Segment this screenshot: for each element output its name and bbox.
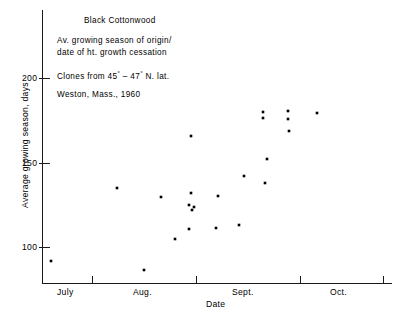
data-point — [190, 192, 193, 195]
chart-subtitle-line-2: date of ht. growth cessation — [57, 49, 167, 58]
chart-note-latitude: Clones from 45° – 47° N. lat. — [57, 70, 169, 81]
scatter-plot-figure: Black Cottonwood Av. growing season of o… — [0, 0, 400, 312]
data-point — [190, 135, 193, 138]
x-axis-title: Date — [206, 299, 225, 309]
data-point — [160, 196, 163, 199]
data-point — [50, 260, 53, 263]
data-point — [193, 206, 196, 209]
data-point — [243, 175, 246, 178]
data-point — [287, 110, 290, 113]
data-point — [174, 238, 177, 241]
chart-title: Black Cottonwood — [84, 17, 156, 26]
data-point — [143, 269, 146, 272]
data-point — [188, 228, 191, 231]
chart-note-location: Weston, Mass., 1960 — [57, 91, 140, 100]
data-point — [288, 130, 291, 133]
data-point — [287, 118, 290, 121]
data-point — [262, 111, 265, 114]
x-tick-label-september: Sept. — [232, 287, 254, 297]
data-point — [191, 209, 194, 212]
data-point — [264, 182, 267, 185]
data-point — [116, 187, 119, 190]
x-tick-label-august: Aug. — [133, 287, 152, 297]
data-point — [316, 112, 319, 115]
x-tick-label-july: July — [57, 287, 73, 297]
chart-subtitle-line-1: Av. growing season of origin/ — [57, 37, 172, 46]
note-latitude-mid: – 47 — [120, 72, 140, 81]
note-latitude-post: N. lat. — [143, 72, 169, 81]
plot-canvas — [0, 0, 400, 312]
note-latitude-pre: Clones from 45 — [57, 72, 117, 81]
data-point — [215, 227, 218, 230]
y-axis-title: Average growing season, days — [20, 60, 30, 230]
y-tick-label-100: 100 — [22, 242, 37, 252]
data-point — [188, 204, 191, 207]
data-point — [262, 117, 265, 120]
data-point — [266, 158, 269, 161]
data-point — [238, 224, 241, 227]
x-tick-label-october: Oct. — [330, 287, 347, 297]
data-point — [217, 195, 220, 198]
